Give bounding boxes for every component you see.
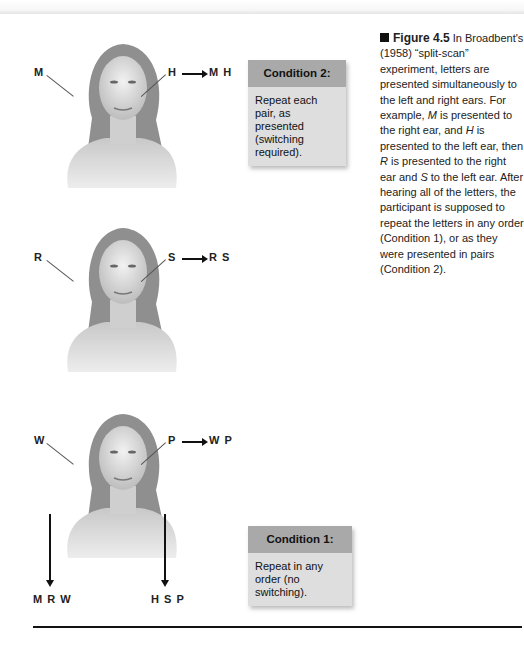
caption-italic: M [428, 109, 437, 121]
arrow-down-icon [49, 514, 51, 582]
arrow-down-icon [164, 514, 166, 582]
pair-output: M H [209, 66, 232, 78]
figure-caption: Figure 4.5 In Broadbent's (1958) “split-… [380, 31, 524, 278]
condition-1-text: Repeat in any order (no switching). [248, 553, 352, 606]
left-ear-letter: M [34, 66, 44, 78]
right-ear-letter: P [168, 434, 176, 446]
condition-2-title: Condition 2: [248, 60, 346, 87]
caption-text: to the left ear. After hearing all of th… [380, 171, 524, 275]
condition-1-title: Condition 1: [248, 526, 352, 553]
caption-italic: R [380, 155, 388, 167]
pair-output: W P [209, 434, 233, 446]
figure-bullet-icon [380, 33, 389, 42]
caption-text: In Broadbent's (1958) “split-scan” exper… [380, 32, 523, 121]
pair-output: R S [209, 251, 230, 263]
left-ear-letter: W [34, 434, 45, 446]
head-portrait-3 [58, 408, 188, 558]
left-ear-sequence: M R W [33, 593, 72, 605]
left-ear-letter: R [34, 251, 43, 263]
head-portrait-1 [58, 38, 188, 188]
caption-italic: H [466, 124, 474, 136]
right-ear-letter: S [168, 251, 176, 263]
bottom-divider [33, 626, 522, 628]
head-portrait-2 [58, 222, 188, 372]
page-edge-shadow [0, 0, 524, 14]
arrow-right-icon [182, 258, 204, 260]
condition-2-box: Condition 2: Repeat each pair, as presen… [248, 60, 346, 166]
right-ear-letter: H [168, 66, 177, 78]
condition-2-text: Repeat each pair, as presented (switchin… [248, 87, 346, 166]
condition-1-box: Condition 1: Repeat in any order (no swi… [248, 526, 352, 606]
arrow-right-icon [182, 73, 204, 75]
figure-label: Figure 4.5 [393, 31, 450, 45]
caption-italic: S [420, 171, 427, 183]
arrow-right-icon [182, 441, 204, 443]
right-ear-sequence: H S P [151, 593, 185, 605]
